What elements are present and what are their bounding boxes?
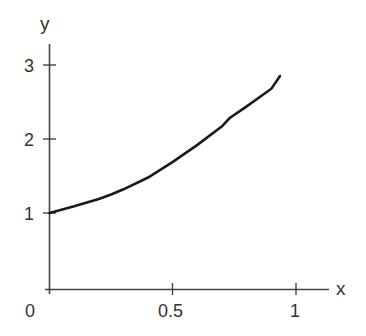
y-tick-label-2: 2 — [24, 130, 34, 150]
y-axis-label: y — [40, 13, 50, 34]
data-curve — [50, 76, 281, 213]
y-tick-label-3: 3 — [24, 56, 34, 76]
x-axis-label: x — [336, 278, 346, 299]
x-tick-label-1: 1 — [290, 301, 300, 321]
x-tick-label-05: 0.5 — [158, 301, 183, 321]
y-tick-label-1: 1 — [24, 204, 34, 224]
origin-label: 0 — [25, 301, 35, 321]
line-chart: y x 3 2 1 0 0.5 1 — [0, 0, 366, 336]
